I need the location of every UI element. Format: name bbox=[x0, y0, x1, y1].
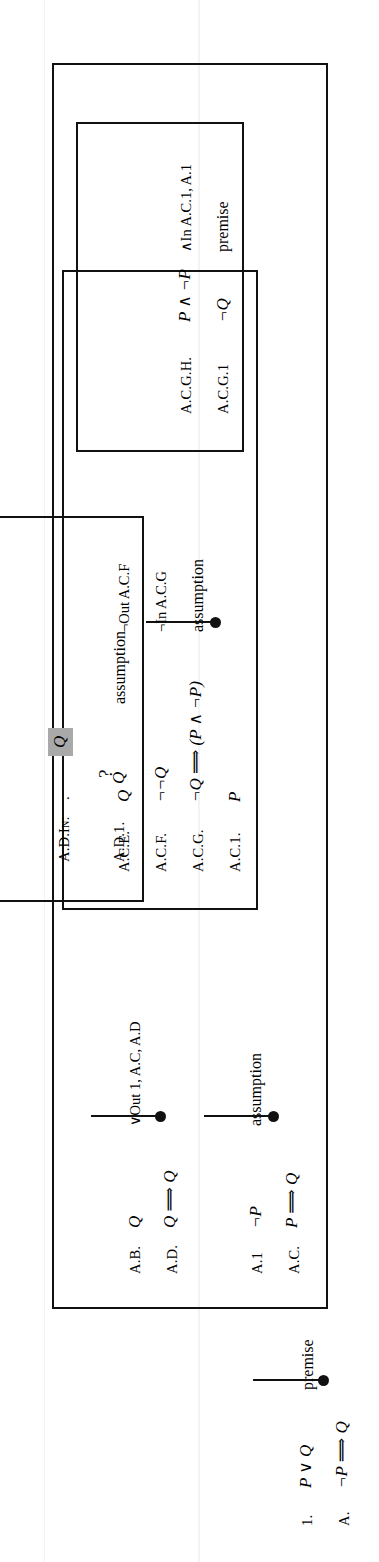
line-label-A-B: A.B. bbox=[128, 1246, 143, 1274]
line-label-A-C-F: A.C.F. bbox=[154, 833, 169, 872]
line-justification-A-D-1: assumption bbox=[112, 631, 128, 704]
line-formula-A-B[interactable]: Q bbox=[126, 1216, 143, 1228]
line-label-1: 1. bbox=[300, 1515, 315, 1526]
line-justification-A-C-G-1: premise bbox=[215, 201, 231, 252]
line-formula-A[interactable]: ¬P ⟹ Q bbox=[333, 1421, 350, 1488]
line-formula-A-C-G-1[interactable]: ¬Q bbox=[214, 298, 231, 322]
line-justification-A-C-F: ¬In A.C.G bbox=[154, 571, 169, 632]
proof-canvas: 1. P ∨ Q A. ¬P ⟹ Q premise A.1 ¬P A.C. P… bbox=[0, 0, 379, 1562]
selected-formula-highlight[interactable]: Q bbox=[48, 728, 73, 756]
line-formula-A-C-1[interactable]: P bbox=[226, 792, 243, 802]
line-formula-A-C-F[interactable]: ¬¬Q bbox=[152, 767, 169, 802]
line-formula-A-D[interactable]: Q ⟹ Q bbox=[161, 1171, 178, 1228]
line-label-A-C-G-H: A.C.G.H. bbox=[179, 357, 194, 414]
line-formula-1[interactable]: P ∨ Q bbox=[297, 1445, 314, 1488]
line-label-A-C-G: A.C.G. bbox=[191, 829, 206, 872]
proof-diagram-page: 1. P ∨ Q A. ¬P ⟹ Q premise A.1 ¬P A.C. P… bbox=[0, 0, 379, 1562]
line-label-A-D: A.D. bbox=[165, 1245, 180, 1274]
line-label-A-C: A.C. bbox=[287, 1246, 302, 1274]
line-label-A-D-1: A.D.1. bbox=[112, 822, 127, 862]
line-justification-A-B: ∨Out 1, A.C, A.D bbox=[128, 1022, 143, 1126]
query-caret-icon: ? bbox=[96, 770, 115, 778]
line-formula-A-D-In[interactable]: . bbox=[57, 796, 72, 800]
line-formula-A-1[interactable]: ¬P bbox=[247, 1206, 264, 1228]
rotated-proof-stage: 1. P ∨ Q A. ¬P ⟹ Q premise A.1 ¬P A.C. P… bbox=[0, 0, 379, 1562]
line-label-A-D-In: A.D.In: bbox=[57, 816, 72, 862]
line-justification-A-C-G-H: ∧In A.C.1, A.1 bbox=[179, 164, 194, 252]
line-formula-A-C[interactable]: P ⟹ Q bbox=[283, 1173, 300, 1228]
line-label-A-C-1: A.C.1. bbox=[228, 833, 243, 872]
line-formula-A-C-G-H[interactable]: P ∧ ¬P bbox=[176, 269, 193, 322]
line-label-A-1: A.1 bbox=[250, 1252, 265, 1274]
line-label-A-C-G-1: A.C.G.1 bbox=[216, 364, 231, 414]
line-justification-A: premise bbox=[300, 1339, 316, 1390]
line-formula-A-C-G[interactable]: ¬Q ⟹ (P ∧ ¬P) bbox=[187, 681, 204, 802]
line-label-A: A. bbox=[337, 1512, 352, 1527]
